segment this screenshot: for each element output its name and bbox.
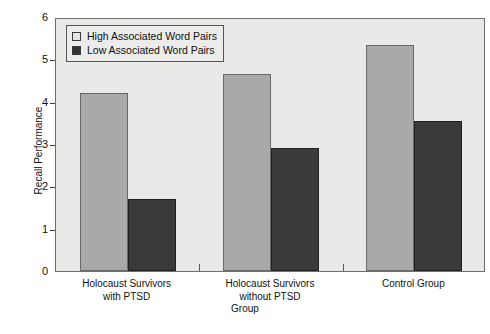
x-tick-mark bbox=[343, 264, 344, 271]
y-tick-label: 4 bbox=[34, 97, 48, 108]
x-category-label-1: Holocaust Survivors with PTSD bbox=[47, 278, 207, 303]
legend-swatch-low-icon bbox=[72, 46, 81, 55]
legend-label-high: High Associated Word Pairs bbox=[87, 30, 217, 42]
legend-label-low: Low Associated Word Pairs bbox=[87, 44, 215, 56]
bar-high-group-3 bbox=[366, 45, 414, 271]
bar-chart: Recall Performance 0123456 High Associat… bbox=[0, 0, 490, 334]
bar-high-group-2 bbox=[223, 74, 271, 271]
y-axis-title: Recall Performance bbox=[33, 51, 44, 251]
y-tick-label: 0 bbox=[34, 266, 48, 277]
bar-low-group-2 bbox=[271, 148, 319, 271]
bar-low-group-3 bbox=[414, 121, 462, 271]
y-tick-label: 1 bbox=[34, 224, 48, 235]
legend-swatch-high-icon bbox=[72, 32, 81, 41]
x-category-label-3: Control Group bbox=[333, 278, 490, 291]
y-tick-label: 6 bbox=[34, 12, 48, 23]
bar-high-group-1 bbox=[80, 93, 128, 271]
y-tick-label: 2 bbox=[34, 181, 48, 192]
legend-item-low: Low Associated Word Pairs bbox=[72, 43, 217, 57]
x-tick-mark bbox=[199, 264, 200, 271]
y-tick-label: 5 bbox=[34, 54, 48, 65]
y-tick-label: 3 bbox=[34, 139, 48, 150]
x-category-label-2: Holocaust Survivors without PTSD bbox=[190, 278, 350, 303]
x-axis-title: Group bbox=[0, 303, 490, 314]
bar-low-group-1 bbox=[128, 199, 176, 271]
legend-item-high: High Associated Word Pairs bbox=[72, 29, 217, 43]
plot-area: High Associated Word Pairs Low Associate… bbox=[55, 18, 485, 272]
legend: High Associated Word Pairs Low Associate… bbox=[66, 25, 224, 62]
